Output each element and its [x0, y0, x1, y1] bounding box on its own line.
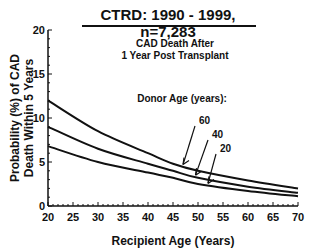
series-label-20: 20 — [220, 143, 232, 154]
x-tick-label: 30 — [92, 211, 104, 223]
y-tick-label: 5 — [39, 156, 45, 168]
x-tick-label: 35 — [117, 211, 129, 223]
chart-subtitle-2: 1 Year Post Transplant — [121, 50, 229, 61]
x-tick-label: 40 — [142, 211, 154, 223]
x-axis-label: Recipient Age (Years) — [112, 234, 235, 248]
series-label-60: 60 — [199, 115, 211, 126]
series-lines — [48, 100, 298, 196]
x-tick-label: 70 — [292, 211, 304, 223]
x-tick-label: 60 — [242, 211, 254, 223]
y-tick-label: 10 — [33, 112, 45, 124]
x-tick-label: 45 — [167, 211, 179, 223]
x-tick-label: 55 — [217, 211, 229, 223]
legend-title: Donor Age (years): — [137, 93, 227, 104]
series-label-40: 40 — [212, 129, 224, 140]
chart-subtitle-1: CAD Death After — [136, 38, 214, 49]
x-tick-label: 20 — [42, 211, 54, 223]
y-tick-label: 15 — [33, 68, 45, 80]
x-tick-label: 50 — [192, 211, 204, 223]
x-tick-label: 25 — [67, 211, 79, 223]
y-tick-label: 20 — [33, 24, 45, 36]
line-chart: CAD Death After 1 Year Post Transplant D… — [0, 0, 311, 252]
x-tick-label: 65 — [267, 211, 279, 223]
y-axis-label-1: Probability (%) of CAD — [8, 54, 22, 182]
